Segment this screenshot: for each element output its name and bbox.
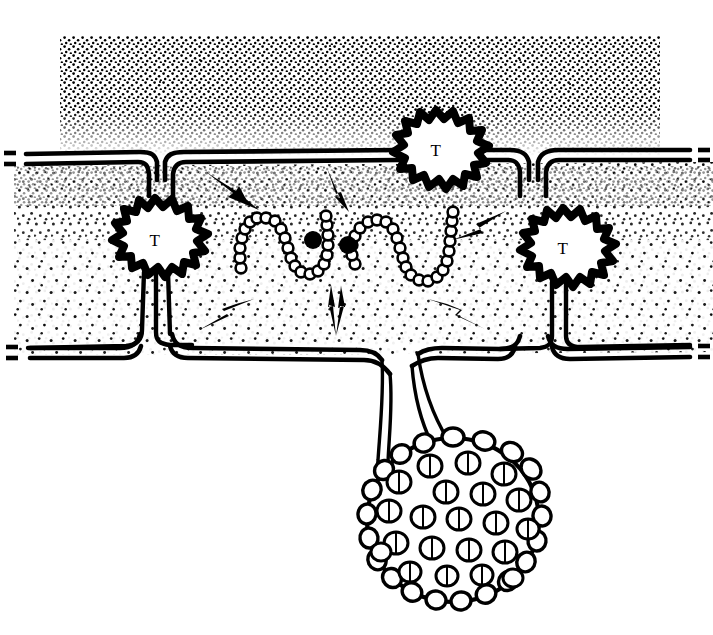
t-cell-top-label: T xyxy=(431,141,442,160)
mucus-layer xyxy=(60,34,660,158)
figure-root: T T T xyxy=(0,0,713,635)
diagram-canvas: T T T xyxy=(0,0,713,635)
t-cell-left-label: T xyxy=(150,231,161,250)
t-cell-right-label: T xyxy=(558,239,569,258)
knobbed-sphere-cell xyxy=(357,428,553,612)
granule-left xyxy=(304,231,322,249)
granule-right xyxy=(339,236,357,254)
